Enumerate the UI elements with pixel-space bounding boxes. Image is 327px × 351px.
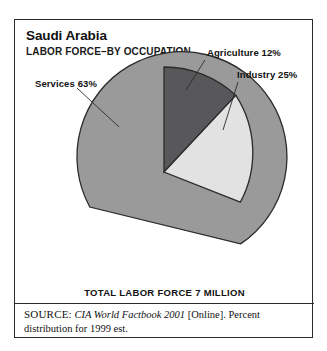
slice-label-services: Services 63% [35, 78, 97, 89]
source-divider [15, 303, 314, 304]
source-note: SOURCE: CIA World Factbook 2001 [Online]… [24, 308, 308, 335]
total-labor-force-caption: TOTAL LABOR FORCE 7 MILLION [15, 287, 314, 298]
figure-frame: Saudi Arabia LABOR FORCE–BY OCCUPATION S… [14, 19, 313, 338]
source-label: SOURCE: [24, 308, 72, 320]
slice-label-agriculture: Agriculture 12% [207, 47, 281, 58]
slice-label-industry: Industry 25% [237, 69, 297, 80]
source-title: CIA World Factbook 2001 [74, 309, 185, 320]
